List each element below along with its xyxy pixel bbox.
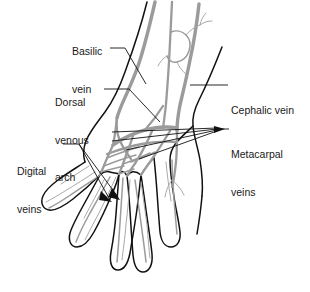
label-metacarpal-line2: veins bbox=[231, 186, 283, 199]
forearm-lateral-outline bbox=[193, 47, 222, 196]
forearm-fine-branch-b bbox=[200, 21, 212, 25]
label-dorsal-line3: arch bbox=[55, 171, 89, 184]
label-cephalic-line1: Cephalic vein bbox=[231, 104, 294, 117]
web-index-middle bbox=[100, 172, 119, 175]
label-digital-line1: Digital bbox=[17, 165, 46, 178]
accessory-forearm-vein bbox=[163, 2, 172, 128]
forearm-fine-branch-a bbox=[186, 25, 200, 35]
anatomy-diagram: Basilic vein Dorsal venous arch Cephalic… bbox=[0, 0, 310, 292]
label-dorsal-line2: venous bbox=[55, 134, 89, 147]
digital-vein-ring-b bbox=[122, 180, 130, 260]
label-dorsal-venous-arch: Dorsal venous arch bbox=[55, 71, 89, 209]
arrowhead-metacarpal bbox=[214, 126, 225, 133]
digital-vein-little-a bbox=[135, 180, 146, 262]
digital-vein-little-b bbox=[141, 182, 150, 258]
leader-dorsal-arch bbox=[104, 89, 160, 122]
label-metacarpal-veins: Metacarpal veins bbox=[231, 123, 283, 223]
label-digital-line2: veins bbox=[17, 203, 46, 216]
forearm-fine-branch-e bbox=[158, 56, 167, 66]
palm-lateral-border bbox=[197, 196, 202, 234]
forearm-fine-branch-d bbox=[177, 62, 186, 74]
label-metacarpal-line1: Metacarpal bbox=[231, 148, 283, 161]
label-dorsal-line1: Dorsal bbox=[55, 96, 89, 109]
label-digital-veins: Digital veins bbox=[17, 140, 46, 240]
label-basilic-line1: Basilic bbox=[72, 45, 102, 58]
basilic-vein bbox=[117, 2, 155, 118]
